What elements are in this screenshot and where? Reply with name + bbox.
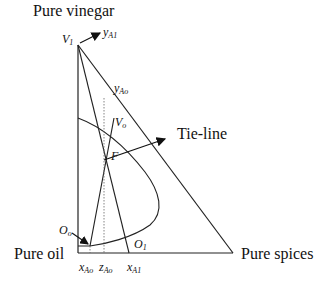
z-ao-label: zAo (99, 261, 113, 275)
v1-o1-line (78, 45, 129, 253)
x-ao-label: xAo (79, 261, 93, 275)
point-vo-label: Vo (115, 116, 126, 130)
vertex-label-pure-spices: Pure spices (241, 246, 313, 262)
vinegar-spices-axis (78, 45, 233, 253)
oo-arrow (72, 233, 88, 244)
tie-line-label: Tie-line (177, 126, 227, 142)
vertex-label-pure-vinegar: Pure vinegar (33, 3, 114, 19)
point-f-label: F (111, 150, 118, 162)
yA1-arrow (80, 33, 100, 43)
point-o1-label: O1 (134, 238, 147, 252)
x-a1-label: xA1 (127, 261, 141, 275)
point-v1-label: V1 (62, 33, 73, 47)
y-a1-label: yA1 (103, 26, 117, 40)
y-ao-label: yAo (114, 82, 128, 96)
tie-line (90, 118, 114, 246)
vertex-label-pure-oil: Pure oil (14, 246, 64, 262)
point-oo-label: Oo (59, 224, 72, 238)
